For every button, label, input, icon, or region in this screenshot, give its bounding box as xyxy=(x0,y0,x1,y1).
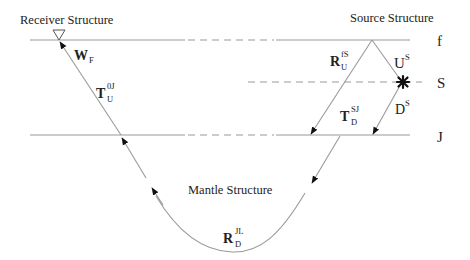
source-structure-title: Source Structure xyxy=(350,11,434,25)
operator-rdjl: R JL D xyxy=(223,226,244,249)
svg-text:U: U xyxy=(394,55,405,71)
operator-tdsj: T SJ D xyxy=(340,104,360,127)
operator-us: U S xyxy=(394,52,410,71)
svg-text:W: W xyxy=(74,48,88,63)
svg-text:D: D xyxy=(351,117,357,127)
svg-text:D: D xyxy=(235,239,241,249)
svg-text:U: U xyxy=(107,94,113,104)
svg-text:S: S xyxy=(405,98,410,108)
upgoing-ray-lower xyxy=(122,138,146,178)
mantle-structure-title: Mantle Structure xyxy=(188,183,273,197)
svg-text:F: F xyxy=(89,55,94,65)
svg-text:SJ: SJ xyxy=(351,104,360,114)
svg-text:U: U xyxy=(341,62,347,72)
level-j-label: J xyxy=(437,129,443,145)
seismic-ray-diagram: f S J Receiver Structure Source Structur… xyxy=(0,0,470,260)
receiver-structure-title: Receiver Structure xyxy=(20,13,114,27)
receiver-triangle-icon xyxy=(53,30,65,40)
mantle-up-arrow xyxy=(152,188,163,205)
source-star-icon xyxy=(397,76,409,88)
svg-text:T: T xyxy=(96,86,106,101)
level-f-label: f xyxy=(437,33,442,49)
svg-text:D: D xyxy=(395,102,405,117)
svg-text:T: T xyxy=(340,109,350,124)
level-s-label: S xyxy=(437,75,445,91)
svg-text:R: R xyxy=(223,231,234,246)
svg-text:R: R xyxy=(330,54,341,69)
svg-text:S: S xyxy=(405,52,410,62)
svg-text:JL: JL xyxy=(235,226,244,236)
operator-ds: D S xyxy=(395,98,410,117)
operator-rufs: R fS U xyxy=(330,49,349,72)
operator-wf: W F xyxy=(74,48,94,65)
svg-text:fS: fS xyxy=(341,49,349,59)
operator-tu0j: T 0J U xyxy=(96,81,115,104)
svg-text:0J: 0J xyxy=(107,81,115,91)
